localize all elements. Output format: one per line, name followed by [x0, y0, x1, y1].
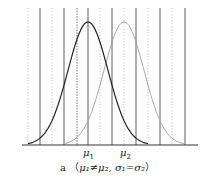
curve-mu2: [64, 22, 185, 144]
solid-grid-lines: [40, 8, 185, 145]
mu2-label: μ2: [120, 148, 131, 161]
figure-caption: a （μ₁≠μ₂, σ₁=σ₂）: [60, 163, 155, 173]
distribution-plot: [0, 0, 208, 183]
mu1-label: μ1: [83, 148, 94, 161]
